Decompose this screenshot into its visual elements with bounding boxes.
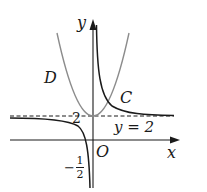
asymptote-label: y = 2 xyxy=(114,120,154,135)
y-axis-arrow-icon xyxy=(90,19,97,30)
y-axis-label: y xyxy=(77,15,86,31)
curve-c-right-branch xyxy=(97,25,175,116)
origin-label: O xyxy=(96,144,109,160)
curve-d-label: D xyxy=(44,70,57,86)
curve-c-label: C xyxy=(120,90,132,106)
graph-canvas xyxy=(0,0,207,192)
fraction-numerator: 1 xyxy=(76,155,83,166)
fraction: 1 2 xyxy=(76,155,84,180)
x-axis-label: x xyxy=(167,145,176,161)
fraction-denominator: 2 xyxy=(76,169,83,180)
fraction-sign: − xyxy=(64,160,75,175)
y-intercept-tick-label: 2 xyxy=(72,111,81,125)
function-graph: y D C 2 y = 2 O x − 1 2 xyxy=(0,0,207,192)
x-intercept-label: − 1 2 xyxy=(64,155,84,180)
